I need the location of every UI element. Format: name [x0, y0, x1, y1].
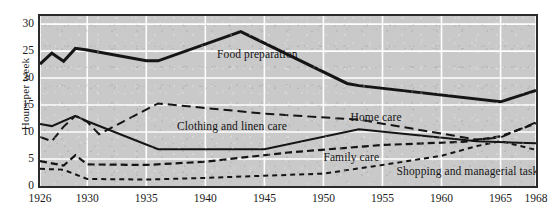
series-label-food-preparation: Food preparation — [217, 49, 297, 61]
y-tick-25: 25 — [8, 45, 34, 57]
y-tick-15: 15 — [8, 99, 34, 111]
y-tick-30: 30 — [8, 18, 34, 30]
x-tick-1940: 1940 — [194, 193, 217, 205]
y-axis-tick-labels: 051015202530 — [6, 0, 34, 222]
x-tick-1968: 1968 — [525, 193, 548, 205]
series-line-home-care — [40, 103, 536, 141]
x-tick-1950: 1950 — [312, 193, 335, 205]
plot-svg — [40, 16, 536, 186]
series-line-food-preparation — [40, 32, 536, 102]
series-label-family-care: Family care — [323, 152, 379, 164]
x-tick-1945: 1945 — [253, 193, 276, 205]
x-tick-1960: 1960 — [430, 193, 453, 205]
plot-area: Food preparationHome careClothing and li… — [38, 14, 538, 188]
series-label-clothing-and-linen-care: Clothing and linen care — [177, 121, 287, 133]
y-tick-0: 0 — [8, 180, 34, 192]
x-tick-1926: 1926 — [29, 193, 52, 205]
x-tick-1965: 1965 — [489, 193, 512, 205]
x-tick-1930: 1930 — [76, 193, 99, 205]
series-label-shopping-and-managerial-tasks: Shopping and managerial tasks — [397, 166, 538, 178]
y-tick-20: 20 — [8, 72, 34, 84]
chart-figure: Hours per week 051015202530 Food prepara… — [0, 0, 548, 222]
x-tick-1935: 1935 — [135, 193, 158, 205]
y-tick-10: 10 — [8, 126, 34, 138]
x-tick-1955: 1955 — [371, 193, 394, 205]
y-tick-5: 5 — [8, 153, 34, 165]
series-label-home-care: Home care — [351, 112, 402, 124]
x-axis-tick-labels: 1926193019351940194519501955196019651968 — [0, 193, 548, 211]
